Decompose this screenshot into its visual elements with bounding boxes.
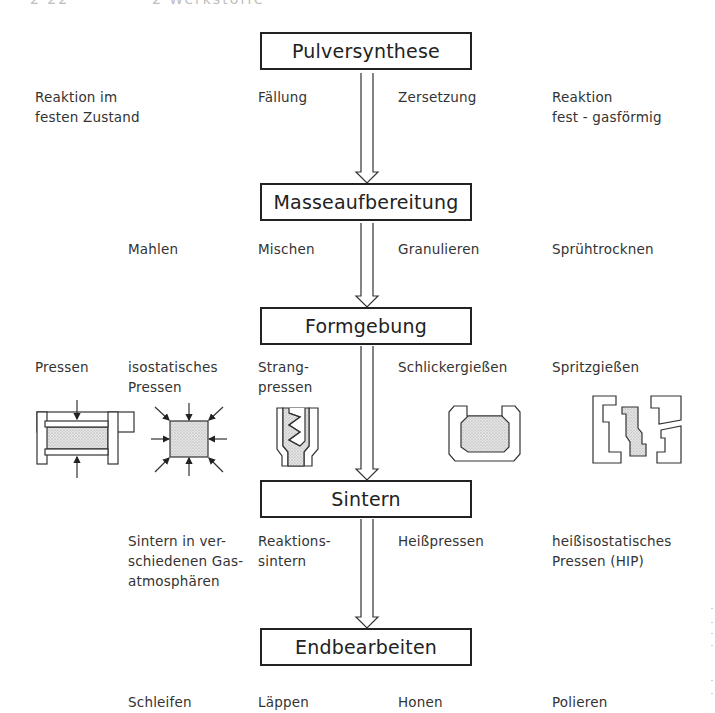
stage-box-sintern: Sintern [260, 480, 472, 518]
method-label: heißisostatisches Pressen (HIP) [552, 531, 672, 571]
method-label: Schlickergießen [398, 357, 507, 377]
stage-title: Masseaufbereitung [273, 191, 458, 213]
scan-artifact [711, 693, 713, 694]
injection-molding-mold-icon [593, 396, 681, 463]
method-label: Sprühtrocknen [552, 239, 654, 259]
method-label: Spritzgießen [552, 357, 639, 377]
method-label: Mahlen [128, 239, 178, 259]
scan-artifact [711, 633, 713, 634]
flow-arrow-2 [356, 223, 378, 307]
stage-title: Endbearbeiten [295, 636, 437, 658]
pressing-die-icon [37, 400, 134, 478]
method-label: Strang- pressen [258, 357, 312, 397]
stage-box-endbearbeiten: Endbearbeiten [260, 628, 472, 666]
isostatic-pressing-icon [151, 403, 227, 476]
method-label: Zersetzung [398, 87, 477, 107]
stage-title: Pulversynthese [292, 40, 440, 62]
scan-artifact [711, 608, 713, 609]
flow-arrow-1 [356, 73, 378, 183]
method-label: Sintern in ver- schiedenen Gas- atmosphä… [128, 531, 243, 591]
method-label: Fällung [258, 87, 307, 107]
method-label: Schleifen [128, 692, 192, 712]
method-label: Reaktion im festen Zustand [35, 87, 140, 127]
method-label: Polieren [552, 692, 607, 712]
stage-title: Formgebung [305, 315, 427, 337]
method-label: Reaktions- sintern [258, 531, 331, 571]
method-label: isostatisches Pressen [128, 357, 218, 397]
method-label: Mischen [258, 239, 315, 259]
flow-arrow-3 [356, 346, 378, 480]
method-label: Pressen [35, 357, 89, 377]
flow-arrow-4 [356, 519, 378, 628]
stage-box-pulversynthese: Pulversynthese [260, 32, 472, 70]
stage-box-masseaufbereitung: Masseaufbereitung [260, 183, 472, 221]
method-label: Honen [398, 692, 443, 712]
method-label: Granulieren [398, 239, 480, 259]
method-label: Heißpressen [398, 531, 484, 551]
extrusion-icon [277, 408, 318, 466]
stage-title: Sintern [331, 488, 400, 510]
stage-box-formgebung: Formgebung [260, 307, 472, 345]
method-label: Reaktion fest - gasförmig [552, 87, 662, 127]
scan-artifact [711, 622, 713, 623]
scan-artifact [711, 680, 713, 681]
slip-casting-mold-icon [449, 406, 520, 461]
scan-artifact [711, 645, 713, 646]
method-label: Läppen [258, 692, 309, 712]
